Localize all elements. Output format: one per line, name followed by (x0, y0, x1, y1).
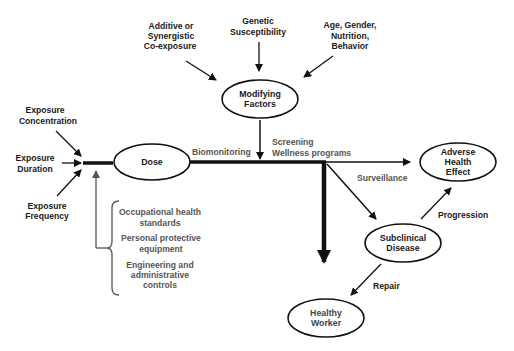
svg-text:Genetic: Genetic (242, 16, 274, 26)
input-genetic-susceptibility: Genetic Susceptibility (230, 16, 286, 37)
svg-text:Behavior: Behavior (332, 41, 369, 51)
label-wellness-programs: Wellness programs (272, 148, 351, 158)
input-exposure-frequency: Exposure Frequency (25, 201, 69, 221)
node-adverse-health-effect: Adverse Health Effect (420, 143, 496, 181)
svg-text:Engineering and: Engineering and (126, 260, 193, 270)
svg-text:Exposure: Exposure (27, 201, 66, 211)
svg-text:administrative: administrative (131, 270, 189, 280)
svg-text:Age, Gender,: Age, Gender, (323, 20, 376, 30)
label-surveillance: Surveillance (357, 173, 408, 183)
arrow-additive (186, 61, 216, 80)
svg-text:Adverse: Adverse (441, 147, 476, 157)
svg-text:Modifying: Modifying (239, 89, 281, 99)
exposure-diagram: Exposure Concentration Exposure Duration… (0, 0, 514, 351)
svg-text:Exposure: Exposure (25, 105, 64, 115)
input-exposure-concentration: Exposure Concentration (19, 105, 77, 126)
svg-text:Frequency: Frequency (25, 211, 69, 221)
svg-text:Exposure: Exposure (15, 153, 54, 163)
control-occupational-health-standards: Occupational health standards (119, 207, 201, 228)
node-healthy-worker: Healthy Worker (288, 299, 364, 337)
svg-text:Effect: Effect (446, 167, 471, 177)
svg-text:Concentration: Concentration (19, 116, 77, 126)
control-personal-protective-equipment: Personal protective equipment (121, 233, 201, 254)
svg-text:controls: controls (143, 280, 177, 290)
svg-text:Synergistic: Synergistic (148, 31, 195, 41)
svg-text:Healthy: Healthy (310, 308, 342, 318)
control-engineering-administrative: Engineering and administrative controls (126, 260, 193, 290)
svg-text:Occupational health: Occupational health (119, 207, 201, 217)
label-biomonitoring: Biomonitoring (192, 147, 251, 157)
svg-text:standards: standards (139, 218, 180, 228)
label-screening: Screening (272, 137, 314, 147)
arrow-age (304, 56, 333, 77)
input-exposure-duration: Exposure Duration (15, 153, 54, 174)
node-dose: Dose (114, 144, 190, 180)
node-subclinical-disease: Subclinical Disease (365, 224, 441, 262)
svg-text:equipment: equipment (139, 244, 183, 254)
svg-text:Worker: Worker (311, 318, 342, 328)
svg-text:Co-exposure: Co-exposure (144, 41, 197, 51)
arrow-concentration (56, 131, 81, 156)
svg-text:Factors: Factors (244, 99, 276, 109)
input-age-gender-nutrition-behavior: Age, Gender, Nutrition, Behavior (323, 20, 376, 51)
label-repair: Repair (373, 281, 400, 291)
svg-text:Dose: Dose (141, 157, 163, 167)
svg-text:Duration: Duration (17, 164, 52, 174)
svg-text:Susceptibility: Susceptibility (230, 27, 286, 37)
svg-text:Disease: Disease (386, 243, 419, 253)
input-additive-coexposure: Additive or Synergistic Co-exposure (144, 21, 197, 51)
arrow-frequency (57, 170, 81, 196)
svg-text:Health: Health (445, 157, 472, 167)
node-modifying-factors: Modifying Factors (222, 80, 298, 118)
svg-text:Personal protective: Personal protective (121, 233, 201, 243)
svg-text:Additive or: Additive or (149, 21, 195, 31)
controls-bracket (107, 201, 119, 295)
svg-text:Subclinical: Subclinical (380, 233, 426, 243)
svg-text:Nutrition,: Nutrition, (331, 31, 369, 41)
label-progression: Progression (438, 210, 488, 220)
